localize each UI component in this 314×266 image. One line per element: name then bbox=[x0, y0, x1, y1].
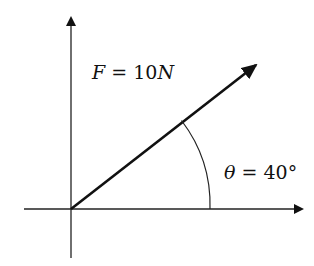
force-variable: F bbox=[92, 61, 105, 83]
force-label: F = 10N bbox=[92, 61, 174, 83]
force-equals: = bbox=[105, 61, 133, 83]
angle-variable: θ bbox=[224, 161, 235, 183]
force-vector bbox=[71, 65, 256, 209]
force-value: 10 bbox=[133, 61, 157, 83]
force-unit: N bbox=[157, 61, 174, 83]
force-diagram bbox=[0, 0, 314, 266]
angle-arc bbox=[182, 121, 211, 210]
angle-value: 40° bbox=[263, 161, 297, 183]
angle-label: θ = 40° bbox=[224, 161, 297, 183]
angle-equals: = bbox=[235, 161, 263, 183]
